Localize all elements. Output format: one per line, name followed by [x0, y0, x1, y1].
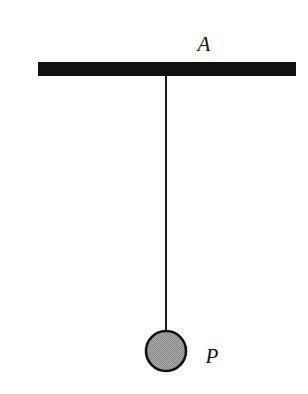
pendulum-diagram-canvas: [0, 0, 308, 394]
pendulum-diagram: A P: [0, 0, 308, 394]
bob-label-p: P: [206, 346, 219, 367]
pendulum-bob: [146, 331, 186, 371]
ceiling-support-bar: [38, 62, 296, 76]
support-label-a: A: [198, 34, 211, 55]
